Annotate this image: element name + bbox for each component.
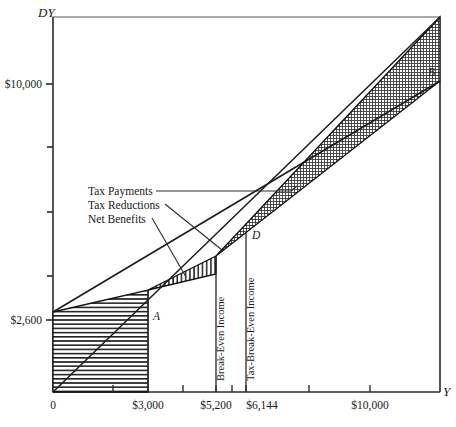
drop-lines: [148, 81, 440, 392]
y-tick-label-10000: $10,000: [5, 78, 43, 91]
region-tax-payments: [216, 17, 440, 256]
point-label-a: A: [152, 310, 161, 322]
vertical-label-break-even-income: Break-Even Income: [215, 296, 226, 381]
y-axis-ticks: [46, 84, 53, 320]
x-tick-label-5200: $5,200: [200, 399, 232, 412]
chart-svg: DY Y $10,000 $2,600 0 $3,000 $5,200 $6,1…: [0, 0, 456, 427]
x-axis-ticks: [113, 385, 370, 392]
x-axis-label: Y: [443, 384, 452, 399]
x-tick-label-0: 0: [50, 399, 56, 411]
y-tick-label-2600: $2,600: [10, 314, 42, 327]
annotation-tax-payments: Tax Payments: [88, 185, 153, 198]
x-tick-label-10000: $10,000: [351, 399, 389, 412]
annotation-net-benefits: Net Benefits: [88, 213, 146, 225]
x-tick-label-6144: $6,144: [246, 399, 278, 412]
annotation-tax-reductions: Tax Reductions: [88, 199, 160, 211]
x-tick-label-3000: $3,000: [132, 399, 164, 412]
region-net-benefits: [53, 290, 148, 392]
negative-income-tax-chart: DY Y $10,000 $2,600 0 $3,000 $5,200 $6,1…: [0, 0, 456, 427]
point-label-b: B: [428, 66, 435, 78]
y-axis-label: DY: [37, 5, 56, 20]
vertical-label-tax-break-even-income: Tax-Break-Even Income: [245, 277, 256, 381]
point-label-d: D: [251, 229, 261, 241]
region-tax-reductions: [148, 256, 216, 290]
